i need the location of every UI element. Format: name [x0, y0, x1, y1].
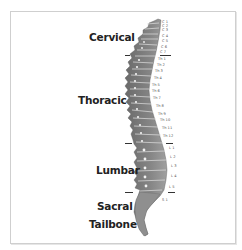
vertebra-label: Th 9 [158, 113, 166, 117]
divider-left-cervical-thoracic [125, 55, 130, 56]
divider-left-lumbar-sacral [125, 192, 133, 193]
vertebra-label: L 3 [171, 165, 176, 169]
vertebra-label: Th 6 [152, 90, 160, 94]
vertebra-label: Th 1 [158, 58, 166, 62]
sacrum-coccyx [135, 192, 160, 236]
region-label-tailbone: Tailbone [89, 218, 137, 230]
vertebra-label: Th 4 [154, 77, 162, 81]
divider-right-thoracic-lumbar [166, 143, 173, 144]
vertebra-label: L 1 [169, 147, 174, 151]
vertebra-label: C 7 [160, 51, 166, 55]
vertebra-label: C 5 [162, 40, 168, 44]
divider-right-lumbar-sacral [168, 192, 175, 193]
vertebra-label: Th 8 [156, 105, 164, 109]
vertebra-label: Th 3 [155, 70, 163, 74]
region-label-sacral: Sacral [97, 200, 133, 212]
vertebra-label: S 1 [162, 199, 168, 203]
divider-left-thoracic-lumbar [125, 143, 132, 144]
region-label-lumbar: Lumbar [96, 164, 140, 176]
vertebra-label: Th 10 [160, 119, 170, 123]
vertebra-label: Th 5 [152, 84, 160, 88]
vertebra-label: L 2 [170, 156, 175, 160]
vertebra-label: Th 11 [162, 127, 172, 131]
vertebra-label: L 4 [171, 175, 176, 179]
region-label-cervical: Cervical [89, 31, 135, 43]
vertebra-label: Th 2 [157, 64, 165, 68]
vertebra-label: C 3 [162, 29, 168, 33]
region-label-thoracic: Thoracic [78, 94, 127, 106]
vertebra-label: Th 7 [153, 97, 161, 101]
vertebra-label: Th 12 [163, 135, 173, 139]
vertebra-label: L 5 [169, 186, 174, 190]
